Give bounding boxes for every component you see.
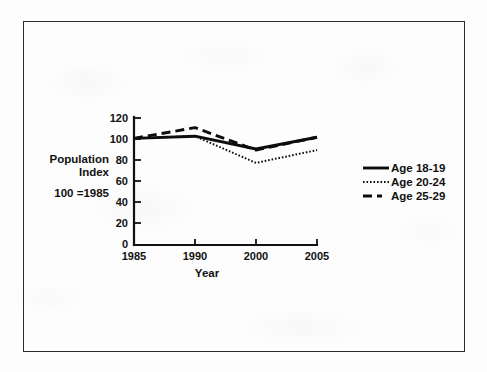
y-tick-label-60: 60 — [116, 175, 128, 187]
line-chart: Population Index 100 =1985 120 100 80 60… — [0, 0, 487, 372]
y-axis-label-line1: Population — [50, 153, 109, 165]
y-axis-label-base-note: 100 =1985 — [54, 187, 109, 199]
y-tick-label-120: 120 — [110, 112, 128, 124]
x-tick-label-1985: 1985 — [122, 250, 146, 262]
chart-svg: Population Index 100 =1985 120 100 80 60… — [0, 0, 487, 372]
x-axis-title: Year — [195, 267, 220, 279]
scanned-page: Population Index 100 =1985 120 100 80 60… — [0, 0, 487, 372]
y-tick-label-40: 40 — [116, 196, 128, 208]
x-tick-label-1990: 1990 — [183, 250, 207, 262]
x-tick-label-2000: 2000 — [244, 250, 268, 262]
legend-label-age-18-19: Age 18-19 — [391, 162, 445, 174]
y-tick-label-20: 20 — [116, 217, 128, 229]
y-tick-label-0: 0 — [122, 238, 128, 250]
y-tick-label-80: 80 — [116, 154, 128, 166]
x-tick-label-2005: 2005 — [305, 250, 329, 262]
y-axis-label-line2: Index — [79, 166, 110, 178]
y-tick-label-100: 100 — [110, 133, 128, 145]
series-line-age-20-24 — [134, 136, 317, 163]
series-line-age-18-19 — [134, 136, 317, 149]
legend-label-age-20-24: Age 20-24 — [391, 176, 446, 188]
series-line-age-25-29 — [134, 128, 317, 150]
legend: Age 18-19 Age 20-24 Age 25-29 — [363, 162, 446, 202]
legend-label-age-25-29: Age 25-29 — [391, 190, 445, 202]
